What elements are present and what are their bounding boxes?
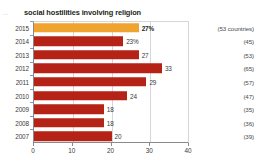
bar-value-label: 33 — [165, 65, 172, 72]
x-axis-tick — [72, 143, 73, 146]
bar[interactable] — [34, 50, 139, 60]
bar[interactable] — [34, 91, 127, 101]
y-axis-tick — [30, 129, 33, 130]
country-count-label: (35) — [243, 106, 254, 113]
bar-track — [34, 131, 112, 141]
bar[interactable] — [34, 23, 139, 33]
x-axis-tick — [149, 143, 150, 146]
country-count-label: (45) — [243, 38, 254, 45]
y-axis-tick — [30, 102, 33, 103]
bar[interactable] — [34, 37, 123, 47]
bar-row: 200818(36) — [0, 116, 257, 130]
bar[interactable] — [34, 118, 104, 128]
bar-row: 201423%(45) — [0, 35, 257, 49]
country-count-label: (39) — [243, 133, 254, 140]
bar-row-year-label: 2015 — [0, 24, 29, 31]
bar-row-year-label: 2007 — [0, 133, 29, 140]
bar-track — [34, 91, 127, 101]
x-axis: 010203040 — [33, 143, 189, 161]
country-count-label: (53 countries) — [218, 24, 254, 31]
x-axis-tick — [111, 143, 112, 146]
bar-track — [34, 64, 162, 74]
bar[interactable] — [34, 64, 162, 74]
bar-track — [34, 104, 104, 114]
country-count-label: (57) — [243, 78, 254, 85]
x-axis-tick-label: 10 — [68, 147, 75, 154]
bar-row: 201327(53) — [0, 48, 257, 62]
bar-row-year-label: 2009 — [0, 106, 29, 113]
bar-value-label: 18 — [107, 106, 114, 113]
bar[interactable] — [34, 77, 146, 87]
bar-row-year-label: 2012 — [0, 65, 29, 72]
bar-row-year-label: 2011 — [0, 78, 29, 85]
bar-row: 201024(47) — [0, 89, 257, 103]
y-axis-tick — [30, 75, 33, 76]
bar[interactable] — [34, 131, 112, 141]
x-axis-tick-label: 40 — [184, 147, 191, 154]
bar[interactable] — [34, 104, 104, 114]
y-axis-tick — [30, 21, 33, 22]
bar-row-year-label: 2014 — [0, 38, 29, 45]
bar-row-year-label: 2008 — [0, 119, 29, 126]
y-axis-tick — [30, 116, 33, 117]
bar-rows: 201527%(53 countries)201423%(45)201327(5… — [0, 21, 257, 143]
bar-row: 200918(35) — [0, 102, 257, 116]
x-axis-tick-label: 20 — [107, 147, 114, 154]
bar-track — [34, 50, 139, 60]
bar-chart: ... social hostilities involving religio… — [0, 0, 257, 162]
x-axis-tick — [33, 143, 34, 146]
country-count-label: (47) — [243, 92, 254, 99]
bar-row: 200720(39) — [0, 129, 257, 143]
chart-title: ... social hostilities involving religio… — [0, 7, 257, 20]
bar-value-label: 18 — [107, 119, 114, 126]
bar-value-label: 27% — [142, 24, 155, 31]
country-count-label: (65) — [243, 65, 254, 72]
y-axis-tick — [30, 48, 33, 49]
bar-row: 201233(65) — [0, 62, 257, 76]
bar-track — [34, 37, 123, 47]
bar-row: 201527%(53 countries) — [0, 21, 257, 35]
bar-track — [34, 77, 146, 87]
country-count-label: (53) — [243, 51, 254, 58]
chart-title-text: social hostilities involving religion — [24, 8, 141, 17]
y-axis-tick — [30, 89, 33, 90]
country-count-label: (36) — [243, 119, 254, 126]
bar-value-label: 27 — [142, 51, 149, 58]
bar-row-year-label: 2013 — [0, 51, 29, 58]
y-axis-tick — [30, 35, 33, 36]
bar-track — [34, 23, 139, 33]
y-axis-tick — [30, 62, 33, 63]
bar-value-label: 23% — [126, 38, 139, 45]
x-axis-tick-label: 30 — [146, 147, 153, 154]
x-axis-tick-label: 0 — [31, 147, 35, 154]
bar-row: 201129(57) — [0, 75, 257, 89]
bar-value-label: 29 — [149, 78, 156, 85]
chart-title-prefix: ... — [3, 9, 8, 16]
bar-track — [34, 118, 104, 128]
x-axis-tick — [188, 143, 189, 146]
bar-value-label: 20 — [115, 133, 122, 140]
bar-value-label: 24 — [130, 92, 137, 99]
bar-row-year-label: 2010 — [0, 92, 29, 99]
